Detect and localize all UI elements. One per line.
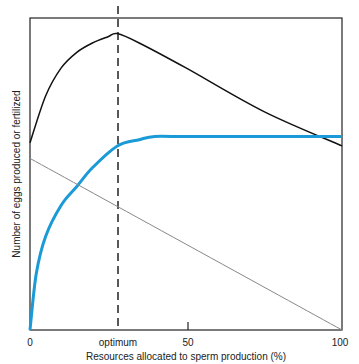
x-tick-label: 0 — [27, 337, 33, 348]
series-line — [30, 136, 342, 330]
x-axis-label: Resources allocated to sperm production … — [86, 351, 286, 362]
series-line — [30, 158, 342, 330]
y-axis-label: Number of eggs produced or fertilized — [11, 90, 22, 257]
x-tick-label: optimum — [99, 337, 137, 348]
x-tick-label: 50 — [182, 337, 194, 348]
plot-frame — [30, 18, 342, 330]
series-group — [30, 33, 342, 330]
series-line — [30, 33, 342, 146]
chart: 0 optimum 50 100 Resources allocated to … — [0, 0, 359, 364]
x-tick-label: 100 — [332, 337, 349, 348]
